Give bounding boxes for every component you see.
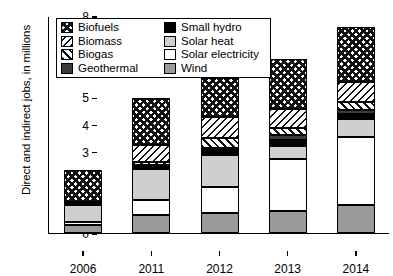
- y-tick-mark: [92, 233, 97, 234]
- bar-segment-biogas[interactable]: [132, 162, 170, 165]
- bar-segment-geothermal[interactable]: [201, 147, 239, 149]
- bar-segment-wind[interactable]: [269, 211, 307, 234]
- legend-label: Geothermal: [78, 62, 138, 75]
- bar-segment-biogas[interactable]: [201, 138, 239, 147]
- legend-label: Solar electricity: [181, 48, 259, 61]
- dark-gray-swatch: [61, 63, 73, 74]
- legend-item-wind[interactable]: Wind: [164, 62, 267, 76]
- legend-item-solar-electricity[interactable]: Solar electricity: [164, 48, 267, 62]
- bar-segment-biomass[interactable]: [132, 145, 170, 163]
- bar-segment-solar-heat[interactable]: [201, 155, 239, 188]
- diagonal-lines-swatch: [61, 36, 73, 47]
- legend-item-biogas[interactable]: Biogas: [61, 48, 164, 62]
- bar-segment-solar-heat[interactable]: [269, 146, 307, 159]
- bar-segment-solar-heat[interactable]: [132, 169, 170, 200]
- x-axis-label: 2011: [116, 262, 186, 276]
- x-axis-label: 2012: [185, 262, 255, 276]
- legend-label: Solar heat: [181, 35, 233, 48]
- x-tick-mark: [355, 251, 356, 256]
- legend-label: Wind: [181, 62, 207, 75]
- bar-segment-small-hydro[interactable]: [269, 140, 307, 146]
- bar-segment-solar-heat[interactable]: [337, 119, 375, 137]
- bar-segment-biogas[interactable]: [269, 128, 307, 135]
- legend-item-biofuels[interactable]: Biofuels: [61, 21, 164, 35]
- checkerboard-swatch: [61, 22, 73, 33]
- chart-legend: BiofuelsBiomassBiogasGeothermalSmall hyd…: [56, 18, 271, 78]
- bar-segment-solar-electricity[interactable]: [64, 222, 102, 225]
- bar-segment-wind[interactable]: [132, 215, 170, 233]
- bar-segment-solar-electricity[interactable]: [132, 200, 170, 215]
- white-swatch: [164, 49, 176, 60]
- bar-segment-wind[interactable]: [337, 205, 375, 233]
- legend-label: Small hydro: [181, 21, 242, 34]
- bar-segment-biogas[interactable]: [337, 102, 375, 110]
- bar-segment-geothermal[interactable]: [337, 110, 375, 114]
- x-tick-mark: [151, 251, 152, 256]
- legend-item-small-hydro[interactable]: Small hydro: [164, 21, 267, 35]
- bar-segment-small-hydro[interactable]: [337, 114, 375, 119]
- medium-gray-swatch: [164, 63, 176, 74]
- diagonal-hatch-swatch: [61, 49, 73, 60]
- light-gray-swatch: [164, 36, 176, 47]
- bar-segment-biomass[interactable]: [337, 82, 375, 102]
- legend-item-solar-heat[interactable]: Solar heat: [164, 35, 267, 49]
- bar-segment-solar-electricity[interactable]: [201, 187, 239, 212]
- bar-segment-solar-heat[interactable]: [64, 205, 102, 222]
- bar-segment-small-hydro[interactable]: [201, 149, 239, 154]
- bar-segment-biofuels[interactable]: [337, 27, 375, 81]
- bar-2013[interactable]: [269, 16, 307, 233]
- y-axis-title: Direct and indirect jobs, in millions: [20, 0, 32, 225]
- bar-segment-solar-electricity[interactable]: [269, 159, 307, 210]
- bar-segment-biomass[interactable]: [269, 109, 307, 128]
- legend-label: Biofuels: [78, 21, 119, 34]
- x-tick-mark: [82, 251, 83, 256]
- bar-segment-solar-electricity[interactable]: [337, 137, 375, 205]
- x-axis-label: 2013: [253, 262, 323, 276]
- x-axis-label: 2006: [48, 262, 118, 276]
- black-swatch: [164, 22, 176, 33]
- bar-2014[interactable]: [337, 16, 375, 233]
- legend-label: Biomass: [78, 35, 122, 48]
- legend-column-1: BiofuelsBiomassBiogasGeothermal: [61, 21, 164, 75]
- x-tick-mark: [219, 251, 220, 256]
- bar-segment-biofuels[interactable]: [201, 78, 239, 117]
- x-tick-mark: [287, 251, 288, 256]
- x-axis-label: 2014: [321, 262, 391, 276]
- bar-segment-wind[interactable]: [64, 225, 102, 233]
- bar-segment-biomass[interactable]: [201, 117, 239, 138]
- bar-segment-wind[interactable]: [201, 213, 239, 233]
- bar-segment-geothermal[interactable]: [269, 135, 307, 140]
- bar-segment-biofuels[interactable]: [132, 98, 170, 145]
- bar-segment-biofuels[interactable]: [64, 170, 102, 202]
- legend-label: Biogas: [78, 48, 113, 61]
- legend-item-biomass[interactable]: Biomass: [61, 35, 164, 49]
- bar-segment-biofuels[interactable]: [269, 59, 307, 108]
- legend-column-2: Small hydroSolar heatSolar electricityWi…: [164, 21, 267, 75]
- legend-item-geothermal[interactable]: Geothermal: [61, 62, 164, 76]
- bar-segment-small-hydro[interactable]: [132, 167, 170, 169]
